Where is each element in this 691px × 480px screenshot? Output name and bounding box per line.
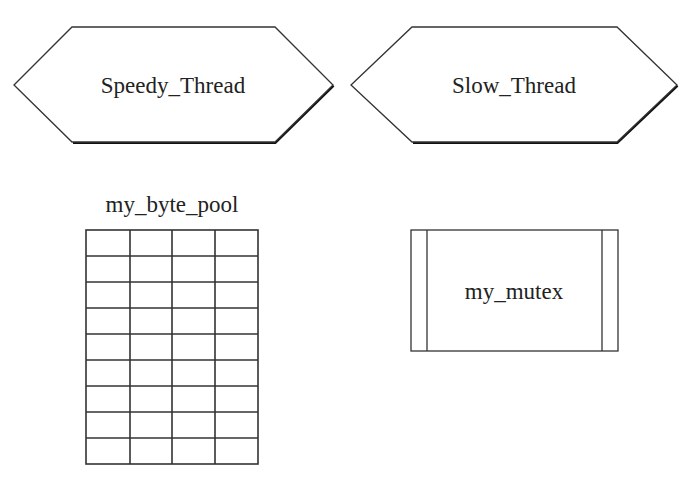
thread-speedy: Speedy_Thread (14, 27, 333, 142)
thread-label: Slow_Thread (452, 73, 576, 98)
mutex-label: my_mutex (465, 279, 564, 304)
byte-pool-grid (86, 230, 258, 464)
byte-pool-label: my_byte_pool (106, 192, 239, 217)
thread-slow: Slow_Thread (351, 27, 677, 142)
byte-pool: my_byte_pool (86, 192, 258, 464)
thread-label: Speedy_Thread (101, 73, 246, 98)
mutex: my_mutex (411, 230, 618, 351)
diagram-canvas: Speedy_Thread Slow_Thread my_byte_pool (0, 0, 691, 480)
